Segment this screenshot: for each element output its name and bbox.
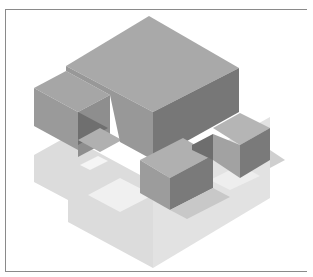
isometric-blocks-illustration xyxy=(0,0,313,277)
